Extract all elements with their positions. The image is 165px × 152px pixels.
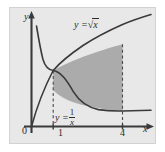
label-curve-sqrt: y =√x — [74, 18, 99, 30]
tick-label-four: 4 — [120, 127, 125, 138]
axis-label-y: y — [24, 12, 28, 22]
label-curve-sqrt-radicand: x — [92, 18, 98, 30]
y-axis-arrow — [28, 11, 35, 19]
fraction-one-over-x: 1x — [69, 108, 76, 127]
label-curve-reciprocal-lhs: y = — [55, 112, 69, 123]
plot-panel: y =√x y =1x 0 1 4 x y — [9, 7, 156, 144]
label-curve-sqrt-lhs: y = — [74, 19, 88, 30]
tick-label-one: 1 — [58, 127, 63, 138]
label-curve-reciprocal: y =1x — [55, 109, 75, 128]
tick-label-origin: 0 — [22, 125, 27, 136]
x-axis-arrow — [147, 123, 155, 130]
fraction-denominator: x — [69, 118, 76, 127]
figure-container: y =√x y =1x 0 1 4 x y — [0, 0, 165, 152]
axis-label-x: x — [143, 124, 147, 134]
